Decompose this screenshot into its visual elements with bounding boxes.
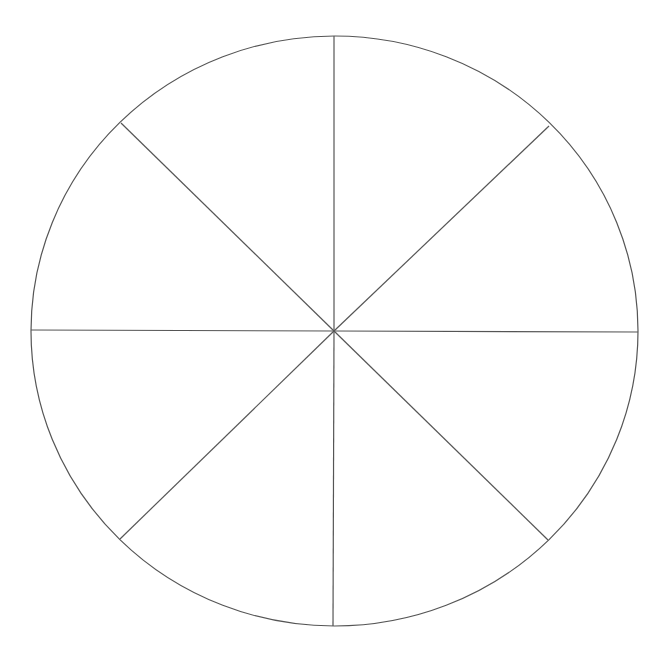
sectored-circle-diagram [0,0,667,659]
circle-diagram-svg [0,0,667,659]
